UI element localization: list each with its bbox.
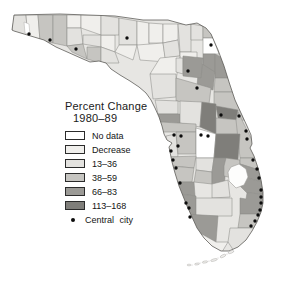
county-citrus <box>155 100 178 114</box>
central-city-dot <box>259 195 262 198</box>
county-walton <box>53 15 67 46</box>
legend-title-line1: Percent Change <box>65 100 147 112</box>
central-city-dot <box>184 201 187 204</box>
florida-key-islet <box>202 261 208 264</box>
central-city-dot <box>186 69 189 72</box>
central-city-marker-icon <box>71 218 75 222</box>
county-desoto <box>194 170 212 184</box>
county-holmes <box>67 15 81 28</box>
central-city-dot <box>237 114 240 117</box>
central-city-dot <box>188 215 191 218</box>
legend-label: 66–83 <box>92 187 117 197</box>
legend-item-central-city: Central city <box>65 215 147 225</box>
florida-key-islet <box>220 254 226 259</box>
central-city-dot <box>255 167 258 170</box>
legend-title-line2: 1980–89 <box>73 112 147 124</box>
central-city-dot <box>259 188 262 191</box>
county-pinellas <box>166 134 178 157</box>
key-speck <box>209 261 210 262</box>
central-city-dot <box>209 43 212 46</box>
florida-key-islet <box>187 264 191 266</box>
county-gadsden <box>101 15 119 35</box>
legend-label: Central city <box>85 215 133 225</box>
county-flagler <box>214 78 234 92</box>
central-city-dot <box>74 47 77 50</box>
legend-title: Percent Change 1980–89 <box>65 100 147 124</box>
legend-label: 13–36 <box>92 159 117 169</box>
central-city-dot <box>187 206 190 209</box>
county-levy <box>150 74 176 99</box>
central-city-dot <box>176 144 179 147</box>
central-city-dot <box>244 129 247 132</box>
county-hillsborough <box>176 132 196 154</box>
central-city-dot <box>257 176 260 179</box>
legend-item-113-168: 113–168 <box>65 201 147 210</box>
county-leon <box>119 18 137 45</box>
legend-item-38-59: 38–59 <box>65 173 147 182</box>
central-city-dot <box>251 158 254 161</box>
legend-swatch-no-data <box>65 131 85 140</box>
legend-label: 113–168 <box>92 201 126 211</box>
county-gilchrist <box>176 58 183 74</box>
key-speck <box>227 254 228 255</box>
county-hamilton <box>163 24 178 43</box>
central-city-dot <box>172 133 175 136</box>
central-city-dot <box>178 181 181 184</box>
central-city-dot <box>199 133 202 136</box>
central-city-dot <box>259 201 262 204</box>
county-washington <box>67 28 83 46</box>
central-city-dot <box>245 137 248 140</box>
county-hendry <box>196 198 232 216</box>
legend-swatch-decrease <box>65 145 85 154</box>
central-city-dot <box>253 219 256 222</box>
county-madison <box>149 23 163 43</box>
legend-item-13-36: 13–36 <box>65 159 147 168</box>
central-city-dot <box>219 113 222 116</box>
central-city-dot <box>256 213 259 216</box>
key-speck <box>192 265 193 266</box>
central-city-dot <box>27 32 30 35</box>
county-baker <box>191 24 203 40</box>
legend-item-no-data: No data <box>65 131 147 140</box>
central-city-dot <box>174 166 177 169</box>
legend-swatch-38-59 <box>65 173 85 182</box>
county-columbia <box>178 24 191 52</box>
key-speck <box>218 258 219 259</box>
county-lee <box>180 194 196 216</box>
florida-percent-change-map-figure: Percent Change 1980–89 No data Decrease … <box>0 0 288 305</box>
county-miami-dade <box>228 228 259 251</box>
county-osceola <box>214 134 240 160</box>
county-hardee <box>196 158 214 172</box>
county-hernando <box>158 114 180 123</box>
central-city-dot <box>125 36 128 39</box>
county-pasco <box>160 122 196 132</box>
legend-swatch-66-83 <box>65 187 85 196</box>
key-speck <box>200 263 201 264</box>
central-city-dot <box>258 208 261 211</box>
legend-item-66-83: 66–83 <box>65 187 147 196</box>
county-suwannee <box>163 40 180 58</box>
legend-label: Decrease <box>92 145 131 155</box>
legend: Percent Change 1980–89 No data Decrease … <box>65 100 147 225</box>
central-city-dot <box>249 224 252 227</box>
central-city-dot <box>48 38 51 41</box>
florida-keys <box>187 250 234 266</box>
central-city-dot <box>171 158 174 161</box>
central-city-dot <box>195 86 198 89</box>
legend-label: No data <box>92 131 124 141</box>
florida-key-islet <box>194 263 199 265</box>
central-city-dot <box>179 134 182 137</box>
legend-swatch-113-168 <box>65 201 85 210</box>
county-st-johns <box>215 54 228 78</box>
legend-label: 38–59 <box>92 173 117 183</box>
legend-rows: No data Decrease 13–36 38–59 66–83 113–1… <box>65 131 147 225</box>
county-alachua <box>183 56 203 78</box>
legend-swatch-13-36 <box>65 159 85 168</box>
florida-key-islet <box>210 258 217 262</box>
central-city-dot <box>169 149 172 152</box>
central-city-dot <box>206 134 209 137</box>
legend-item-decrease: Decrease <box>65 145 147 154</box>
